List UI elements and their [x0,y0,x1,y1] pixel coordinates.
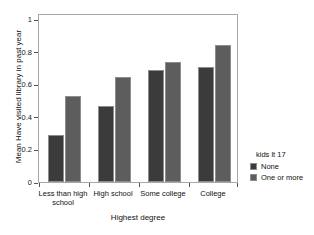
bar-one-or-more-high-school [115,77,131,182]
legend-item-none[interactable]: None [250,162,312,171]
x-tick-mark-3 [189,183,190,187]
y-tick-label-3: 0.6 [22,79,32,90]
y-tick-label-0: 0 [28,177,32,188]
x-category-label-3: College [182,189,244,198]
y-axis-title: Mean Have visited library in past year [14,22,23,172]
y-tick-label-5: 1 [28,14,32,25]
legend-title: kids lt 17 [256,150,312,159]
bars-layer [39,15,237,182]
x-tick-mark-end [237,183,238,187]
bar-one-or-more-some-college [165,62,181,182]
legend-swatch-icon-none [250,163,257,170]
legend-swatch-icon-one-or-more [250,174,257,181]
bar-none-high-school [98,106,114,182]
legend-item-one-or-more[interactable]: One or more [250,173,312,182]
x-axis-title: Highest degree [38,213,238,222]
plot-area [38,14,238,183]
x-tick-mark-1 [89,183,90,187]
bar-none-some-college [148,70,164,182]
legend-label-one-or-more: One or more [261,173,303,182]
x-tick-mark-0 [39,183,40,187]
bar-none-college [198,67,214,182]
x-tick-mark-2 [139,183,140,187]
y-tick-label-4: 0.8 [22,47,32,58]
y-tick-label-1: 0.2 [22,144,32,155]
y-tick-label-2: 0.4 [22,112,32,123]
legend: kids lt 17 None One or more [250,150,312,184]
bar-chart: 1 0.8 0.6 0.4 0.2 0 Mean Have visited li… [0,0,314,235]
bar-one-or-more-college [215,45,231,182]
bar-none-less-than-high-school [48,135,64,182]
bar-one-or-more-less-than-high-school [65,96,81,182]
legend-label-none: None [261,162,279,171]
